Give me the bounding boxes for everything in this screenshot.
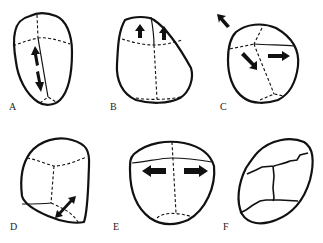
panel-b: B bbox=[110, 17, 192, 112]
panel-d: D bbox=[10, 139, 89, 232]
arrow-outward-icon bbox=[217, 14, 230, 28]
arrow-up-icon bbox=[31, 46, 40, 66]
panel-label-f: F bbox=[223, 221, 229, 232]
panel-label-c: C bbox=[220, 101, 227, 112]
panel-label-a: A bbox=[9, 101, 17, 112]
panel-e: E bbox=[113, 142, 214, 232]
panel-label-d: D bbox=[10, 221, 17, 232]
panel-label-e: E bbox=[113, 221, 119, 232]
arrow-up-icon bbox=[159, 26, 169, 40]
panel-label-b: B bbox=[110, 101, 117, 112]
arrow-up-icon bbox=[135, 24, 145, 38]
arrow-inward-icon bbox=[241, 52, 257, 70]
arrow-right-icon bbox=[268, 51, 290, 61]
double-arrow-icon bbox=[55, 196, 76, 218]
panel-c: C bbox=[217, 14, 298, 112]
arrow-left-icon bbox=[142, 165, 166, 177]
skull-diagram: A B C D bbox=[0, 0, 323, 243]
panel-f: F bbox=[223, 139, 312, 232]
arrow-right-icon bbox=[184, 165, 208, 177]
panel-a: A bbox=[9, 13, 72, 112]
arrow-down-icon bbox=[35, 71, 44, 92]
